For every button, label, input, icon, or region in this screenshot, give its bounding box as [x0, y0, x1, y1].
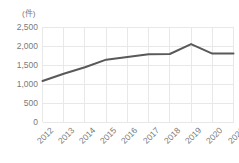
x-axis-tick-labels: 2012201320142015201620172018201920202021	[0, 0, 239, 163]
line-chart: (件) 05001,0001,5002,0002,500 20122013201…	[0, 0, 239, 163]
